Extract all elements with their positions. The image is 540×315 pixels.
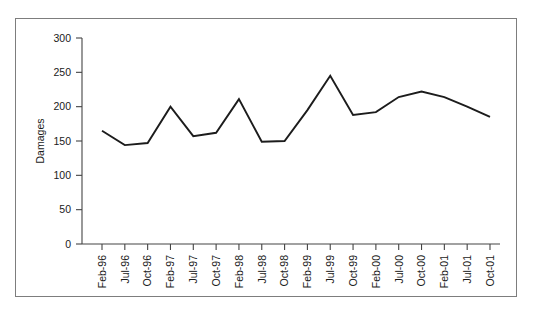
x-tick-label: Jul-97 (187, 255, 199, 284)
y-tick-label: 100 (53, 169, 71, 181)
line-chart: 050100150200250300 Feb-96Jul-96Oct-96Feb… (0, 0, 540, 315)
x-tick-label: Feb-98 (233, 255, 245, 288)
y-tick-label: 300 (53, 32, 71, 44)
x-tick-label: Oct-00 (415, 255, 427, 287)
x-axis-ticks (102, 244, 490, 250)
x-tick-label: Jul-01 (461, 255, 473, 284)
x-tick-label: Feb-97 (164, 255, 176, 288)
y-axis-ticks (76, 38, 82, 244)
x-tick-label: Oct-98 (278, 255, 290, 287)
y-tick-label: 150 (53, 135, 71, 147)
figure-container: 050100150200250300 Feb-96Jul-96Oct-96Feb… (0, 0, 540, 315)
y-axis-title: Damages (34, 119, 46, 164)
x-tick-label: Feb-99 (301, 255, 313, 288)
x-tick-label: Jul-99 (324, 255, 336, 284)
x-tick-label: Oct-96 (141, 255, 153, 287)
x-tick-label: Jul-00 (393, 255, 405, 284)
x-tick-label: Jul-98 (256, 255, 268, 284)
y-tick-label: 50 (59, 203, 71, 215)
y-tick-label: 250 (53, 66, 71, 78)
y-tick-label: 0 (65, 238, 71, 250)
x-tick-label: Feb-96 (96, 255, 108, 288)
x-tick-label: Oct-99 (347, 255, 359, 287)
x-axis-tick-labels: Feb-96Jul-96Oct-96Feb-97Jul-97Oct-97Feb-… (96, 255, 496, 288)
x-tick-label: Oct-01 (484, 255, 496, 287)
x-tick-label: Feb-01 (438, 255, 450, 288)
data-series-damages (102, 76, 490, 145)
x-tick-label: Oct-97 (210, 255, 222, 287)
x-tick-label: Feb-00 (370, 255, 382, 288)
y-axis-tick-labels: 050100150200250300 (53, 32, 71, 250)
y-tick-label: 200 (53, 100, 71, 112)
x-tick-label: Jul-96 (119, 255, 131, 284)
